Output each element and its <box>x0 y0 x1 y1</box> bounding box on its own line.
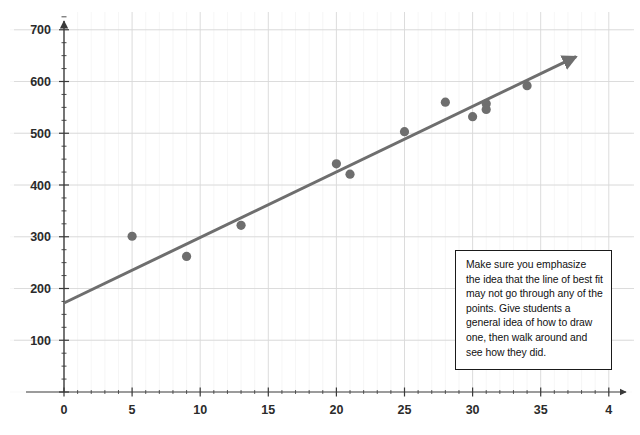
data-point <box>236 221 245 230</box>
data-point <box>482 105 491 114</box>
x-tick-label: 4 <box>605 403 612 417</box>
data-point <box>332 159 341 168</box>
data-point <box>182 252 191 261</box>
y-tick-label: 600 <box>30 75 51 89</box>
y-tick-label: 500 <box>30 127 51 141</box>
x-tick-label: 0 <box>61 403 68 417</box>
x-tick-label: 35 <box>534 403 548 417</box>
x-tick-label: 30 <box>466 403 480 417</box>
x-tick-label: 20 <box>329 403 343 417</box>
y-tick-label: 100 <box>30 334 51 348</box>
data-point <box>128 232 137 241</box>
data-point <box>345 170 354 179</box>
data-point <box>441 98 450 107</box>
data-point <box>522 81 531 90</box>
chart-canvas: 051015202530354100200300400500600700 Mak… <box>0 0 640 435</box>
x-tick-label: 15 <box>261 403 275 417</box>
y-tick-label: 700 <box>30 23 51 37</box>
y-tick-label: 300 <box>30 230 51 244</box>
y-tick-label: 200 <box>30 282 51 296</box>
x-tick-label: 5 <box>129 403 136 417</box>
teacher-note-box: Make sure you emphasize the idea that th… <box>455 250 612 370</box>
data-point <box>400 127 409 136</box>
y-tick-label: 400 <box>30 179 51 193</box>
data-point <box>468 112 477 121</box>
teacher-note-text: Make sure you emphasize the idea that th… <box>466 258 603 360</box>
x-tick-label: 25 <box>398 403 412 417</box>
x-tick-label: 10 <box>193 403 207 417</box>
